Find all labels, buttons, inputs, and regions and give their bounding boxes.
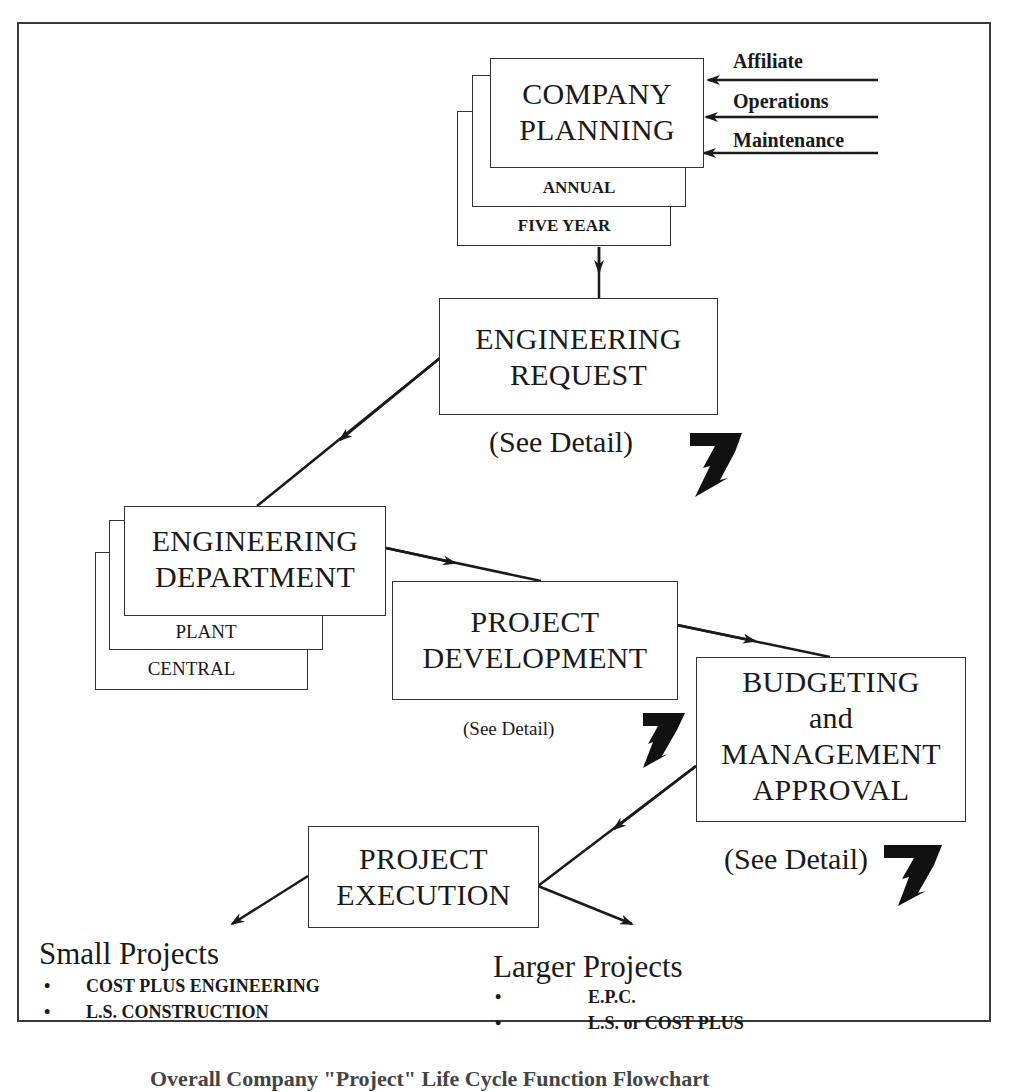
bullet-icon: • xyxy=(495,1010,501,1036)
larger-projects-heading: Larger Projects xyxy=(493,949,683,985)
arrow-execution-small xyxy=(232,876,308,924)
input-maintenance: Maintenance xyxy=(733,129,844,152)
bullet-icon: • xyxy=(44,999,50,1025)
lightning-icon-budgeting xyxy=(884,845,942,906)
arrow-execution-larger xyxy=(538,886,632,924)
project-development-title-1: PROJECT xyxy=(393,604,677,640)
project-development-title-2: DEVELOPMENT xyxy=(393,640,677,676)
project-development-see-detail: (See Detail) xyxy=(463,718,554,740)
engineering-department-title-1: ENGINEERING xyxy=(125,523,385,559)
engineering-department-title-2: DEPARTMENT xyxy=(125,559,385,595)
project-execution-title-1: PROJECT xyxy=(309,841,538,877)
engineering-request-box: ENGINEERING REQUEST xyxy=(439,298,718,415)
figure-caption: Overall Company "Project" Life Cycle Fun… xyxy=(150,1066,709,1092)
larger-projects-item: • L.S. or COST PLUS xyxy=(495,1010,744,1036)
engineering-request-title-1: ENGINEERING xyxy=(440,321,717,357)
budgeting-see-detail: (See Detail) xyxy=(724,842,868,876)
company-planning-title-1: COMPANY xyxy=(491,76,703,112)
larger-projects-item: • E.P.C. xyxy=(495,984,744,1010)
annual-label: ANNUAL xyxy=(473,178,685,198)
budgeting-title-1: BUDGETING xyxy=(697,664,965,700)
lightning-icon-request xyxy=(690,433,742,497)
budgeting-title-3: MANAGEMENT xyxy=(697,736,965,772)
plant-label: PLANT xyxy=(90,621,322,643)
central-label: CENTRAL xyxy=(76,658,307,680)
company-planning-title-2: PLANNING xyxy=(491,112,703,148)
input-operations: Operations xyxy=(733,90,829,113)
project-development-box: PROJECT DEVELOPMENT xyxy=(392,581,678,700)
budgeting-title-4: APPROVAL xyxy=(697,772,965,808)
larger-projects-list: • E.P.C. • L.S. or COST PLUS xyxy=(495,984,744,1036)
bullet-icon: • xyxy=(495,984,501,1010)
budgeting-box: BUDGETING and MANAGEMENT APPROVAL xyxy=(696,657,966,822)
budgeting-title-2: and xyxy=(697,700,965,736)
input-affiliate: Affiliate xyxy=(733,50,803,73)
company-planning-box: COMPANY PLANNING xyxy=(490,58,704,168)
engineering-request-title-2: REQUEST xyxy=(440,357,717,393)
bullet-icon: • xyxy=(44,973,50,999)
lightning-icon-development xyxy=(643,713,685,768)
project-execution-box: PROJECT EXECUTION xyxy=(308,826,539,928)
project-execution-title-2: EXECUTION xyxy=(309,877,538,913)
small-projects-heading: Small Projects xyxy=(39,936,219,972)
five-year-label: FIVE YEAR xyxy=(458,216,670,236)
small-projects-item: • L.S. CONSTRUCTION xyxy=(44,999,320,1025)
small-projects-item: • COST PLUS ENGINEERING xyxy=(44,973,320,999)
engineering-request-see-detail: (See Detail) xyxy=(489,425,633,459)
small-projects-list: • COST PLUS ENGINEERING • L.S. CONSTRUCT… xyxy=(44,973,320,1025)
engineering-department-box: ENGINEERING DEPARTMENT xyxy=(124,506,386,616)
